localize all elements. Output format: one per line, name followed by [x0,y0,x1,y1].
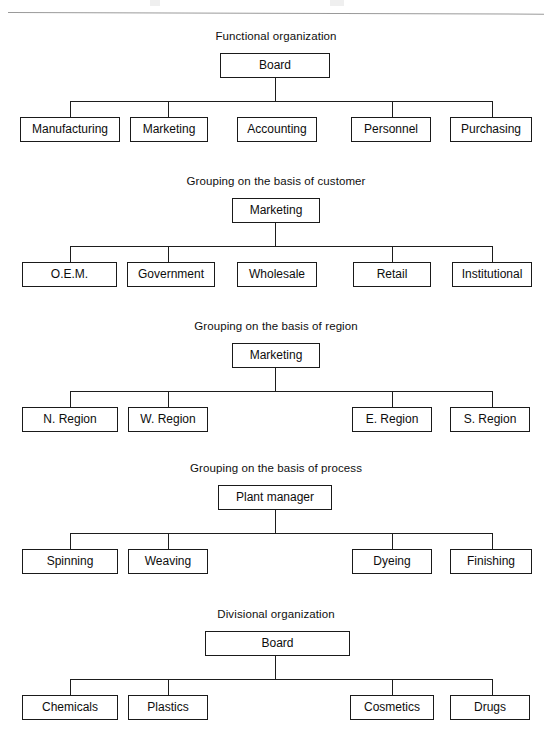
node-child[interactable]: Manufacturing [20,117,120,142]
connector-child-stem [392,533,393,549]
node-child[interactable]: Purchasing [450,117,532,142]
connector-root-stem [275,223,276,246]
diagram-page: Functional organization Board Manufactur… [0,0,552,748]
node-child[interactable]: Institutional [452,262,532,287]
org-chart-divisional-organization: Divisional organization Board Chemicals … [0,608,552,748]
node-root[interactable]: Marketing [232,198,320,223]
connector-root-stem [275,368,276,391]
node-child[interactable]: S. Region [450,407,530,432]
connector-bus [70,679,492,680]
node-child[interactable]: Weaving [128,549,208,574]
chart-title: Grouping on the basis of process [0,462,552,475]
node-child[interactable]: Wholesale [237,262,317,287]
connector-child-stem [70,391,71,407]
node-child[interactable]: Plastics [128,695,208,720]
connector-child-stem [492,679,493,695]
connector-child-stem [392,391,393,407]
node-child[interactable]: Drugs [450,695,530,720]
connector-child-stem [492,101,493,117]
node-child[interactable]: Accounting [237,117,317,142]
node-child[interactable]: N. Region [22,407,118,432]
connector-child-stem [392,679,393,695]
node-child[interactable]: O.E.M. [22,262,117,287]
connector-child-stem [70,101,71,117]
connector-root-stem [275,510,276,533]
chart-title: Grouping on the basis of region [0,320,552,333]
chart-title: Functional organization [0,30,552,43]
node-child[interactable]: Cosmetics [350,695,434,720]
node-root[interactable]: Marketing [232,343,320,368]
org-chart-grouping-by-process: Grouping on the basis of process Plant m… [0,462,552,602]
node-root[interactable]: Plant manager [218,485,332,510]
node-child[interactable]: Chemicals [22,695,118,720]
chart-title: Divisional organization [0,608,552,621]
org-chart-functional-organization: Functional organization Board Manufactur… [0,30,552,170]
connector-child-stem [392,101,393,117]
connector-child-stem [392,246,393,262]
connector-child-stem [70,533,71,549]
connector-child-stem [492,391,493,407]
node-child[interactable]: Personnel [351,117,431,142]
connector-bus [70,101,492,102]
org-chart-grouping-by-customer: Grouping on the basis of customer Market… [0,175,552,315]
node-child[interactable]: Retail [353,262,431,287]
connector-child-stem [70,679,71,695]
connector-child-stem [168,246,169,262]
node-child[interactable]: Dyeing [352,549,432,574]
connector-child-stem [168,101,169,117]
node-child[interactable]: Finishing [450,549,532,574]
connector-bus [70,246,492,247]
connector-root-stem [275,78,276,101]
connector-bus [70,391,492,392]
connector-child-stem [492,246,493,262]
connector-child-stem [168,679,169,695]
org-chart-grouping-by-region: Grouping on the basis of region Marketin… [0,320,552,460]
scan-artifact-left [150,0,160,6]
node-root[interactable]: Board [205,631,350,656]
connector-bus [70,533,492,534]
node-child[interactable]: E. Region [352,407,432,432]
connector-child-stem [168,391,169,407]
node-child[interactable]: Government [127,262,215,287]
connector-root-stem [275,656,276,679]
node-root[interactable]: Board [220,53,330,78]
connector-child-stem [492,533,493,549]
node-child[interactable]: Marketing [130,117,208,142]
node-child[interactable]: W. Region [128,407,208,432]
connector-child-stem [70,246,71,262]
chart-title: Grouping on the basis of customer [0,175,552,188]
node-child[interactable]: Spinning [22,549,118,574]
page-top-rule [8,12,544,15]
scan-artifact-right [330,0,344,6]
connector-child-stem [168,533,169,549]
